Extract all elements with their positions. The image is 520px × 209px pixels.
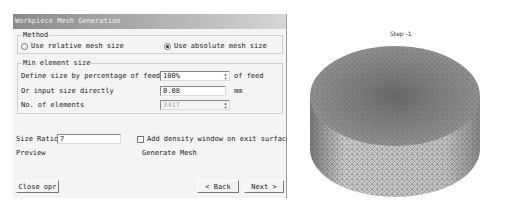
close-opr-button[interactable]: Close opr	[16, 180, 59, 193]
percentage-unit: of feed	[234, 72, 264, 81]
spinner-icon[interactable]: ▴▾	[222, 101, 229, 109]
method-group: Method Use relative mesh size Use absolu…	[17, 35, 283, 54]
size-ratio-input[interactable]: 7	[57, 134, 121, 144]
min-element-legend: Min element size	[22, 59, 91, 68]
direct-size-unit: mm	[234, 87, 242, 96]
direct-size-label: Or input size directly	[21, 87, 114, 96]
density-window-checkbox[interactable]: Add density window on exit surface	[137, 135, 290, 144]
method-legend: Method	[22, 31, 49, 40]
window-title: Workpiece Mesh Generation	[13, 14, 286, 29]
next-button[interactable]: Next >	[244, 180, 284, 193]
spinner-icon[interactable]: ▴▾	[222, 72, 229, 80]
back-button[interactable]: < Back	[197, 180, 239, 193]
preview-link[interactable]: Preview	[16, 149, 46, 158]
percentage-label: Define size by percentage of feed	[21, 72, 160, 81]
min-element-size-group: Min element size Define size by percenta…	[17, 63, 283, 114]
step-label: Step -1	[390, 30, 412, 37]
percentage-input[interactable]: 100% ▴▾	[160, 71, 230, 81]
generate-mesh-link[interactable]: Generate Mesh	[142, 149, 197, 158]
checkbox-icon	[137, 136, 144, 143]
elements-count-label: No. of elements	[21, 101, 84, 110]
cylinder-mesh-render	[287, 14, 507, 198]
direct-size-input[interactable]: 0.08	[160, 86, 226, 96]
mesh-generation-panel: Workpiece Mesh Generation Method Use rel…	[13, 14, 287, 198]
size-ratio-label: Size Ratio	[16, 135, 58, 144]
radio-relative-mesh[interactable]: Use relative mesh size	[21, 42, 124, 51]
radio-absolute-mesh[interactable]: Use absolute mesh size	[164, 42, 267, 51]
radio-icon	[21, 43, 28, 50]
radio-selected-icon	[164, 43, 171, 50]
mesh-preview-viewport[interactable]: Step -1	[287, 14, 507, 198]
elements-count-input[interactable]: 3417 ▴▾	[160, 100, 230, 110]
